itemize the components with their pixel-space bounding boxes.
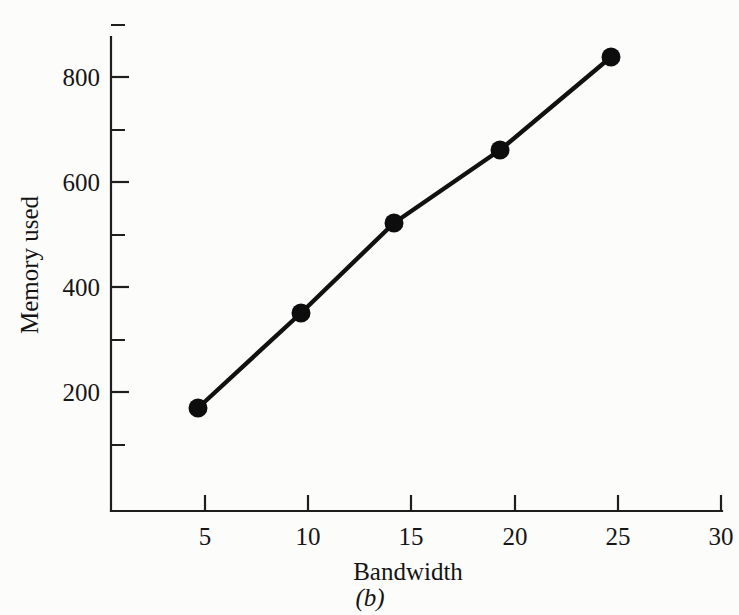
y-axis-title: Memory used (16, 195, 43, 334)
figure-canvas: 800 600 400 200 5 10 15 20 25 30 Bandwid… (0, 0, 739, 615)
axis-spines (111, 37, 722, 511)
y-tick-label-400: 400 (63, 274, 101, 301)
x-tick-label-20: 20 (503, 523, 528, 550)
y-axis-minor-ticks (111, 25, 125, 445)
data-point (491, 141, 510, 160)
scatter-line-chart: 800 600 400 200 5 10 15 20 25 30 Bandwid… (0, 0, 739, 615)
x-axis-tick-labels: 5 10 15 20 25 30 (199, 523, 734, 550)
y-tick-label-800: 800 (63, 64, 101, 91)
y-tick-label-600: 600 (63, 169, 101, 196)
figure-caption: (b) (355, 584, 384, 612)
x-axis-major-ticks (205, 495, 721, 511)
x-tick-label-5: 5 (199, 523, 212, 550)
data-point (602, 48, 621, 67)
data-point (292, 304, 311, 323)
data-series-line (198, 57, 611, 408)
data-point (385, 214, 404, 233)
x-tick-label-15: 15 (399, 523, 424, 550)
y-axis-tick-labels: 800 600 400 200 (63, 64, 101, 406)
x-axis-title: Bandwidth (353, 558, 463, 585)
x-tick-label-30: 30 (709, 523, 734, 550)
data-point (189, 399, 208, 418)
x-tick-label-25: 25 (606, 523, 631, 550)
x-tick-label-10: 10 (296, 523, 321, 550)
y-tick-label-200: 200 (63, 379, 101, 406)
